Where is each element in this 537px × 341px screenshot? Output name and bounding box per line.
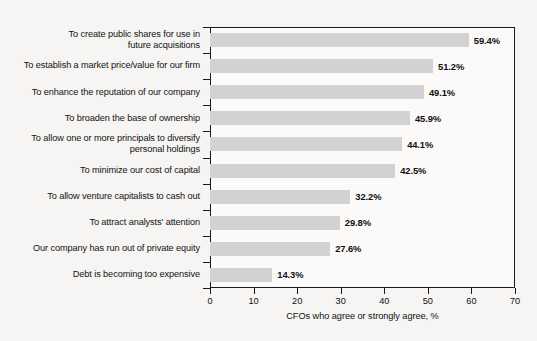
x-axis-tick-label: 30 [336, 296, 346, 306]
bar-row: 32.2% [210, 184, 515, 210]
category-tick [203, 79, 210, 80]
bar-value-label: 59.4% [474, 35, 500, 46]
category-tick [203, 131, 210, 132]
category-tick [203, 105, 210, 106]
bars-layer: 59.4%51.2%49.1%45.9%44.1%42.5%32.2%29.8%… [210, 27, 515, 288]
category-label: To allow one or more principals to diver… [0, 131, 200, 157]
category-label: To enhance the reputation of our company [0, 79, 200, 105]
bar-row: 14.3% [210, 262, 515, 288]
category-label: To establish a market price/value for ou… [0, 53, 200, 79]
x-axis-tick-label: 20 [292, 296, 302, 306]
x-axis-tick [210, 288, 211, 294]
x-axis-tick-label: 50 [423, 296, 433, 306]
x-axis-tick [254, 288, 255, 294]
bar-row: 45.9% [210, 105, 515, 131]
category-tick [203, 236, 210, 237]
category-label-line: To attract analysts' attention [89, 217, 200, 228]
bar-value-label: 49.1% [429, 87, 455, 98]
bar-row: 42.5% [210, 158, 515, 184]
bar-value-label: 14.3% [277, 269, 303, 280]
bar-row: 44.1% [210, 131, 515, 157]
x-axis-tick-label: 40 [379, 296, 389, 306]
bar [210, 190, 350, 204]
bar-row: 51.2% [210, 53, 515, 79]
bar-row: 29.8% [210, 210, 515, 236]
category-label-line: Debt is becoming too expensive [73, 269, 200, 280]
category-tick [203, 184, 210, 185]
x-axis-tick-label: 10 [248, 296, 258, 306]
category-label-line: To broaden the base of ownership [65, 113, 200, 124]
category-label-line: future acquisitions [128, 40, 200, 51]
category-label: Debt is becoming too expensive [0, 262, 200, 288]
category-tick [203, 210, 210, 211]
bar-row: 27.6% [210, 236, 515, 262]
category-label: To create public shares for use infuture… [0, 27, 200, 53]
x-axis-tick [515, 288, 516, 294]
category-tick [203, 27, 210, 28]
category-label-line: To minimize our cost of capital [80, 165, 200, 176]
category-label-line: To create public shares for use in [69, 29, 200, 40]
bar-value-label: 29.8% [345, 217, 371, 228]
category-label-line: Our company has run out of private equit… [33, 243, 200, 254]
category-label: To attract analysts' attention [0, 210, 200, 236]
category-label: To allow venture capitalists to cash out [0, 184, 200, 210]
bar-row: 59.4% [210, 27, 515, 53]
category-label: Our company has run out of private equit… [0, 236, 200, 262]
bar-value-label: 42.5% [400, 165, 426, 176]
x-axis-tick [428, 288, 429, 294]
bar [210, 164, 395, 178]
category-tick [203, 158, 210, 159]
category-label-line: To allow venture capitalists to cash out [47, 191, 200, 202]
bar-row: 49.1% [210, 79, 515, 105]
x-axis-tick [297, 288, 298, 294]
x-axis-tick-label: 60 [466, 296, 476, 306]
bar [210, 268, 272, 282]
bar-value-label: 32.2% [355, 191, 381, 202]
x-axis-tick-label: 70 [510, 296, 520, 306]
x-axis-tick-label: 0 [207, 296, 212, 306]
category-tick [203, 53, 210, 54]
bar-value-label: 44.1% [407, 139, 433, 150]
bar [210, 59, 433, 73]
bar [210, 33, 469, 47]
category-label: To minimize our cost of capital [0, 158, 200, 184]
category-tick [203, 262, 210, 263]
category-label: To broaden the base of ownership [0, 105, 200, 131]
bar-value-label: 45.9% [415, 113, 441, 124]
category-label-line: To allow one or more principals to diver… [31, 133, 200, 144]
bar-value-label: 27.6% [335, 243, 361, 254]
bar [210, 216, 340, 230]
x-axis-tick [384, 288, 385, 294]
bar [210, 242, 330, 256]
category-label-line: To enhance the reputation of our company [32, 87, 200, 98]
bar-chart: To create public shares for use infuture… [0, 0, 537, 341]
x-axis-tick [341, 288, 342, 294]
bar [210, 111, 410, 125]
bar-value-label: 51.2% [438, 61, 464, 72]
category-label-line: To establish a market price/value for ou… [24, 60, 200, 71]
bar [210, 137, 402, 151]
category-label-line: personal holdings [130, 144, 200, 155]
x-axis-title: CFOs who agree or strongly agree, % [210, 311, 515, 321]
bar [210, 85, 424, 99]
category-axis: To create public shares for use infuture… [0, 27, 205, 288]
category-tick [203, 288, 210, 289]
x-axis-tick [471, 288, 472, 294]
